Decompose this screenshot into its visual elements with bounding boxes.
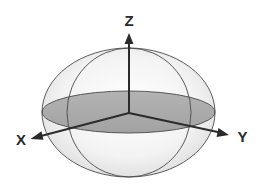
ellipsoid-axes-diagram: Z X Y (0, 0, 259, 190)
y-arrowhead-icon (217, 128, 230, 137)
z-axis-label: Z (124, 12, 133, 29)
y-axis-label: Y (237, 128, 247, 145)
x-axis-label: X (16, 131, 26, 148)
z-arrowhead-icon (125, 33, 134, 44)
x-arrowhead-icon (31, 131, 44, 140)
